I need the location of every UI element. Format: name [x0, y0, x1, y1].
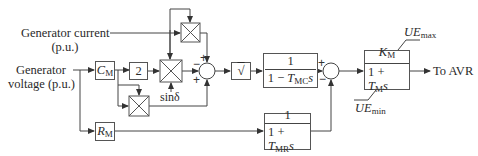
cm-to-bottom-mult-left: [118, 85, 128, 106]
main-lag-block: KM 1 + TMs: [364, 50, 410, 90]
rm-block: RM: [95, 122, 115, 141]
voltage-label-line2: voltage (p.u.): [8, 77, 74, 91]
lag-numerator: 1: [281, 108, 293, 122]
gain-value: 2: [135, 64, 141, 79]
current-label-line2: (p.u.): [21, 40, 109, 54]
sum-junction-1: [199, 63, 215, 79]
voltage-label-line1: Generator: [8, 63, 74, 77]
sum1-sign-bottom: +: [193, 74, 200, 86]
main-numerator: KM: [376, 45, 398, 62]
cm-subscript: M: [105, 68, 113, 78]
sum1-sign-top: +: [200, 52, 207, 64]
generator-voltage-label: Generator voltage (p.u.): [8, 63, 74, 91]
ue-max-label: UEmax: [404, 25, 436, 42]
lag-denominator: 1 + TMRs: [265, 125, 310, 156]
current-label-line1: Generator current: [21, 26, 109, 40]
sum2-sign-plus: +: [318, 57, 325, 69]
cm-block: CM: [95, 61, 115, 80]
lag-r-block: 1 1 + TMRs: [264, 113, 311, 150]
ue-min-label: UEmin: [355, 101, 386, 118]
lead-block: 1 1 − TMCs: [263, 53, 318, 88]
to-avr-label: To AVR: [433, 64, 473, 78]
rm-symbol: R: [97, 124, 105, 138]
gain-2-block: 2: [129, 62, 148, 80]
main-denominator: 1 + TMs: [365, 65, 409, 96]
sin-delta-label: sinδ: [160, 90, 180, 104]
lead-numerator: 1: [284, 54, 296, 68]
voltage-to-rm-line: [80, 70, 94, 131]
generator-current-label: Generator current (p.u.): [21, 26, 109, 54]
rm-subscript: M: [105, 129, 113, 139]
cm-symbol: C: [97, 63, 105, 77]
sqrt-block: √: [231, 62, 251, 80]
sum2-sign-minus: −: [319, 73, 326, 85]
lead-denominator: 1 − TMCs: [265, 71, 316, 88]
sum1-sign-left: −: [193, 58, 200, 70]
sqrt-symbol: √: [237, 63, 244, 79]
